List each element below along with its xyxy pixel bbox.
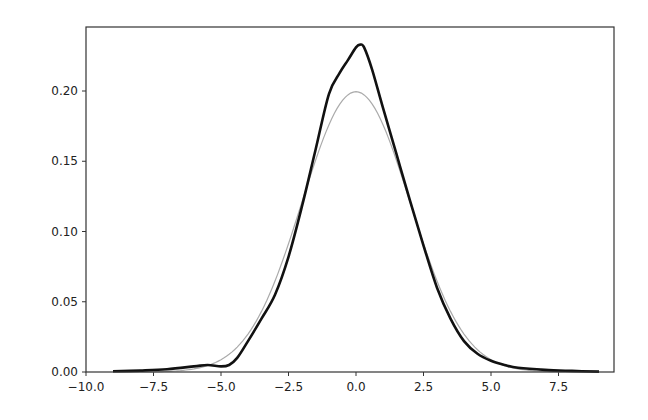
x-tick-label: 7.5 [549, 380, 568, 394]
x-tick-label: 5.0 [481, 380, 500, 394]
x-tick-label: −10.0 [68, 380, 105, 394]
y-tick-label: 0.10 [51, 225, 78, 239]
x-tick-label: −2.5 [274, 380, 303, 394]
x-tick-label: 2.5 [414, 380, 433, 394]
y-tick-label: 0.20 [51, 84, 78, 98]
x-tick-label: −5.0 [206, 380, 235, 394]
kde-density-curve [113, 44, 599, 371]
y-tick-label: 0.15 [51, 154, 78, 168]
x-axis-ticks: −10.0−7.5−5.0−2.50.02.55.07.5 [68, 372, 568, 394]
series-layer [113, 44, 599, 372]
y-axis-ticks: 0.000.050.100.150.20 [51, 84, 86, 379]
x-tick-label: 0.0 [346, 380, 365, 394]
normal-pdf-curve [113, 92, 599, 372]
y-tick-label: 0.05 [51, 295, 78, 309]
x-tick-label: −7.5 [139, 380, 168, 394]
density-chart: 0.000.050.100.150.20 −10.0−7.5−5.0−2.50.… [0, 0, 648, 420]
plot-frame [86, 27, 614, 372]
y-tick-label: 0.00 [51, 365, 78, 379]
